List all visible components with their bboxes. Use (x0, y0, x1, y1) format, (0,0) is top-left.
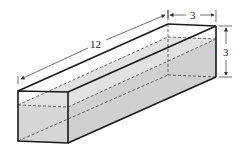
length-label: 12 (90, 38, 101, 50)
length-arrow-right (106, 15, 165, 40)
prism-diagram: 12 3 3 (0, 0, 241, 151)
back-top-edge (168, 24, 216, 26)
width-label: 3 (190, 9, 196, 21)
height-label: 3 (223, 46, 229, 58)
water-front-face (18, 105, 68, 143)
